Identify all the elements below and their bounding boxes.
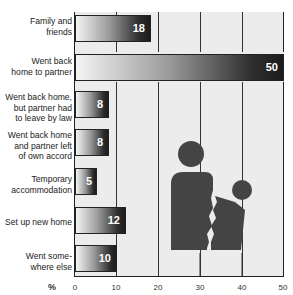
label-line: Went back home, (0, 92, 72, 103)
label-line: accommodation (0, 185, 72, 196)
x-tick: 40 (238, 283, 247, 292)
category-label: Went back home to partner (0, 56, 72, 77)
x-tick: 30 (196, 283, 205, 292)
category-label: Went back home, but partner had to leave… (0, 92, 72, 124)
label-line: Went back home (0, 130, 72, 141)
label-line: Went back (0, 56, 72, 67)
label-line: Temporary (0, 174, 72, 185)
axis-unit-label: % (48, 282, 56, 292)
x-tick: 10 (112, 283, 121, 292)
label-line: of own accord (0, 151, 72, 162)
category-label: Went some- where else (0, 251, 72, 272)
label-line: where else (0, 262, 72, 273)
category-label: Set up new home (0, 217, 72, 228)
label-line: but partner had (0, 103, 72, 114)
label-line: Family and (0, 16, 72, 27)
plot-area: 18 50 8 8 5 12 10 (74, 12, 284, 277)
category-label: Family and friends (0, 16, 72, 37)
label-line: and partner left (0, 141, 72, 152)
label-line: to leave by law (0, 113, 72, 124)
label-line: Set up new home (0, 217, 72, 228)
category-label: Went back home and partner left of own a… (0, 130, 72, 162)
label-line: home to partner (0, 67, 72, 78)
family-split-illustration-icon (75, 12, 285, 277)
label-line: Went some- (0, 251, 72, 262)
category-label: Temporary accommodation (0, 174, 72, 195)
x-tick: 50 (279, 283, 288, 292)
x-tick: 0 (73, 283, 77, 292)
x-tick: 20 (154, 283, 163, 292)
label-line: friends (0, 27, 72, 38)
